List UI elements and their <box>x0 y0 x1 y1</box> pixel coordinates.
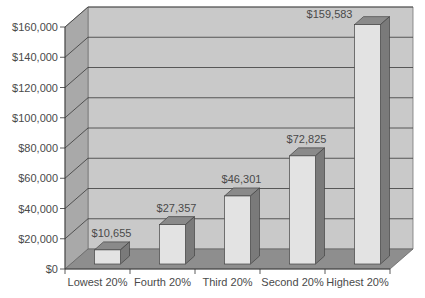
bar-front <box>290 156 316 264</box>
bar-side <box>381 17 390 264</box>
y-tick-label: $80,000 <box>18 142 58 154</box>
y-tick-label: $40,000 <box>18 203 58 215</box>
x-tick-label: Third 20% <box>202 276 252 288</box>
bar-side <box>251 188 260 264</box>
bar-side <box>316 148 325 264</box>
data-label: $159,583 <box>307 8 353 20</box>
x-tick-label: Second 20% <box>261 276 324 288</box>
x-tick-label: Fourth 20% <box>134 276 191 288</box>
y-tick-label: $160,000 <box>12 21 58 33</box>
bar-side <box>186 217 195 264</box>
y-tick-label: $20,000 <box>18 233 58 245</box>
y-tick-label: $120,000 <box>12 82 58 94</box>
bar-front <box>225 196 251 264</box>
data-label: $72,825 <box>287 133 327 145</box>
data-label: $27,357 <box>157 202 197 214</box>
x-tick-label: Lowest 20% <box>68 276 128 288</box>
bar-front <box>355 25 381 264</box>
x-tick-label: Highest 20% <box>326 276 389 288</box>
data-label: $46,301 <box>222 173 262 185</box>
y-tick-label: $140,000 <box>12 51 58 63</box>
bar-front <box>160 225 186 264</box>
bar: $27,357 <box>157 202 197 264</box>
data-label: $10,655 <box>92 227 132 239</box>
y-tick-label: $60,000 <box>18 172 58 184</box>
bar-front <box>95 250 121 264</box>
y-tick-label: $0 <box>46 263 58 275</box>
y-tick-label: $100,000 <box>12 112 58 124</box>
bar-chart: $10,655$27,357$46,301$72,825$159,583 $0$… <box>0 0 425 298</box>
